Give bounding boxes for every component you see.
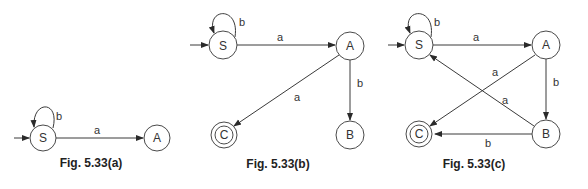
state-a: A	[532, 31, 560, 59]
figure-caption: Fig. 5.33(a)	[60, 156, 123, 170]
diagram-canvas: b a S A Fig. 5.33(a) b a a b S A	[0, 0, 588, 189]
edge-label: a	[94, 124, 101, 136]
figure-caption: Fig. 5.33(b)	[246, 157, 309, 171]
state-b: B	[532, 120, 560, 148]
state-label: C	[220, 128, 229, 142]
state-label: B	[346, 128, 354, 142]
figure-a: b a S A Fig. 5.33(a)	[14, 107, 170, 170]
state-label: S	[415, 38, 423, 52]
edge-label: b	[434, 16, 440, 28]
figure-c: b a a b a b S A C B Fig. 5.33(c)	[388, 14, 560, 171]
edge-a-c	[234, 55, 339, 126]
state-label: B	[542, 127, 550, 141]
edge-label: a	[502, 94, 509, 106]
edge-label: a	[277, 31, 284, 43]
state-a: A	[336, 32, 364, 60]
edge-label: b	[485, 137, 491, 149]
edge-label: b	[357, 77, 363, 89]
state-s: S	[30, 125, 56, 151]
edge-label: a	[492, 66, 499, 78]
state-a: A	[144, 125, 170, 151]
edge-label: b	[239, 16, 245, 28]
state-label: S	[39, 131, 47, 145]
state-label: A	[346, 39, 354, 53]
figure-caption: Fig. 5.33(c)	[443, 157, 506, 171]
state-label: C	[415, 127, 424, 141]
edge-label: a	[294, 91, 301, 103]
edge-label: a	[473, 31, 480, 43]
state-label: S	[219, 39, 227, 53]
figure-b: b a a b S A C B Fig. 5.33(b)	[190, 14, 364, 171]
state-label: A	[153, 131, 161, 145]
edge-label: b	[56, 110, 62, 122]
state-label: A	[542, 38, 550, 52]
edge-label: b	[553, 76, 559, 88]
state-c-final: C	[406, 121, 432, 147]
state-s: S	[405, 31, 433, 59]
state-s: S	[209, 31, 237, 59]
state-c-final: C	[211, 122, 237, 148]
state-b: B	[336, 121, 364, 149]
